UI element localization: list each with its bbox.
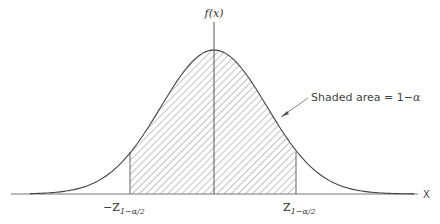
annotation-text: Shaded area = 1− [311,91,413,104]
y-axis-label: f(x) [204,7,224,20]
x-axis-label: X [423,189,430,200]
left-bound-sign: − [103,201,112,214]
right-bound-subscript: 1−α/2 [291,207,316,216]
normal-curve-diagram: f(x) X Shaded area = 1−α −Z1−α/2 Z1−α/2 [0,0,440,224]
shaded-area [130,50,296,194]
right-bound-label: Z1−α/2 [283,201,316,216]
annotation-alpha: α [413,91,421,104]
left-bound-label: −Z1−α/2 [103,201,145,216]
shaded-area-annotation: Shaded area = 1−α [311,91,421,104]
left-bound-subscript: 1−α/2 [120,207,145,216]
